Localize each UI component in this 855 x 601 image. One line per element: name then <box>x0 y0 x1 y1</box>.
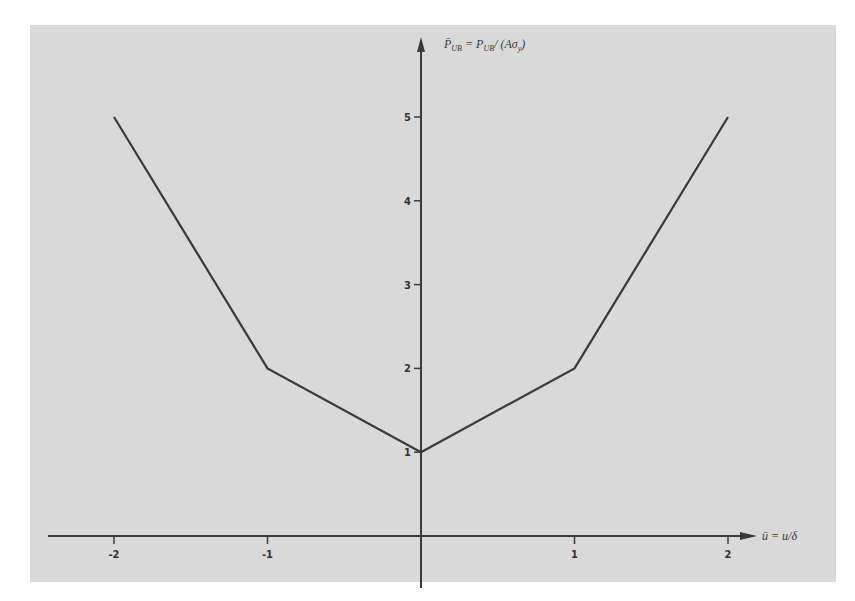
x-tick-label: -2 <box>109 548 120 561</box>
y-tick-label: 2 <box>404 362 411 375</box>
y-tick-label: 3 <box>404 279 411 292</box>
y-ticks: 12345 <box>404 111 421 459</box>
y-axis-arrow-icon <box>417 37 425 52</box>
y-tick-label: 4 <box>404 195 411 208</box>
y-axis <box>417 37 425 588</box>
x-axis-label: ū = u/δ <box>762 529 797 543</box>
x-tick-label: -1 <box>262 548 273 561</box>
x-axis <box>48 532 757 540</box>
y-tick-label: 1 <box>404 446 411 459</box>
chart-svg: -2-112 12345 ū = u/δ P̄UB= PUB/ (Aσy) <box>0 0 855 601</box>
x-axis-arrow-icon <box>740 532 757 540</box>
x-tick-label: 2 <box>725 548 732 561</box>
y-tick-label: 5 <box>404 111 411 124</box>
x-tick-label: 1 <box>571 548 578 561</box>
y-axis-label: P̄UB= PUB/ (Aσy) <box>443 37 525 53</box>
